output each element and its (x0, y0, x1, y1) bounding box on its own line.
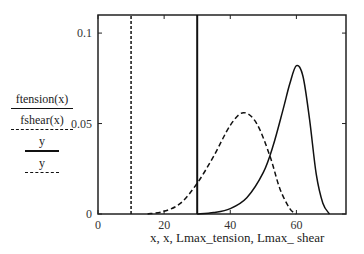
x-tick-label: 0 (95, 218, 101, 232)
legend-entry-fshear: fshear(x) (2, 113, 82, 130)
dotted-line-swatch-icon (25, 172, 59, 173)
legend-label: fshear(x) (20, 113, 63, 129)
legend: ftension(x) fshear(x) y y (2, 92, 82, 177)
x-axis-label: x, x, Lmax_tension, Lmax_ shear (150, 230, 324, 246)
thick-line-swatch-icon (25, 150, 59, 152)
plot-curves (131, 15, 329, 214)
dashed-line-swatch-icon (11, 129, 73, 130)
legend-label: ftension(x) (16, 92, 69, 108)
y-tick-label: 0 (86, 207, 92, 221)
y-tick-label: 0.1 (77, 26, 92, 40)
series-ftension-x- (197, 65, 329, 214)
legend-entry-ftension: ftension(x) (2, 92, 82, 109)
axis-ticks: 020406000.050.1 (71, 15, 346, 232)
solid-line-swatch-icon (11, 108, 73, 109)
legend-label: y (39, 156, 45, 172)
legend-entry-y-dotted: y (2, 156, 82, 173)
series-fshear-x- (148, 113, 297, 214)
legend-label: y (39, 134, 45, 150)
legend-entry-y-solid: y (2, 134, 82, 152)
